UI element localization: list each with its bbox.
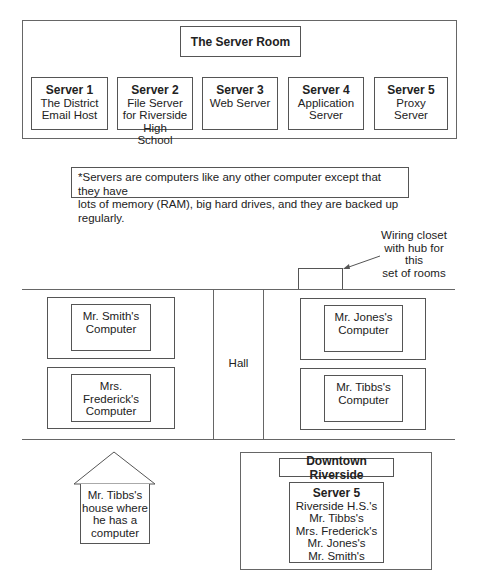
downtown-server-line: Mr. Tibbs's: [309, 512, 364, 525]
computer-tibbs: Mr. Tibbs's Computer: [324, 375, 403, 422]
computer-frederick-line: Computer: [86, 405, 137, 418]
wiring-closet-label-line: Wiring closet: [381, 229, 447, 242]
downtown-server-line: Mr. Jones's: [308, 537, 366, 550]
computer-smith-line: Computer: [86, 323, 137, 336]
hall-label-text: Hall: [229, 357, 249, 370]
hall-label: Hall: [214, 355, 263, 371]
downtown-server-line: Riverside H.S.'s: [296, 500, 377, 513]
computer-frederick-line: Mrs. Frederick's: [72, 380, 150, 405]
footnote-line-1: *Servers are computers like any other co…: [78, 171, 402, 198]
downtown-server-line: Mr. Smith's: [308, 550, 365, 563]
server-2-name: Server 2: [131, 84, 178, 97]
server-1-desc: The District: [40, 97, 98, 110]
server-4-desc: Server: [309, 109, 343, 122]
server-3-name: Server 3: [216, 84, 263, 97]
arrow-icon: [340, 254, 382, 272]
server-5-desc: Server: [394, 109, 428, 122]
downtown-title: Downtown Riverside: [279, 458, 394, 477]
computer-tibbs-line: Computer: [338, 394, 389, 407]
computer-frederick: Mrs. Frederick's Computer: [71, 374, 151, 422]
server-1-box: Server 1 The District Email Host: [31, 77, 108, 130]
servers-footnote: *Servers are computers like any other co…: [71, 167, 409, 198]
server-1-name: Server 1: [46, 84, 93, 97]
house-line: he has a: [93, 514, 137, 527]
server-4-desc: Application: [298, 97, 354, 110]
server-3-desc: Web Server: [210, 97, 271, 110]
building-bottom-wall: [22, 439, 455, 440]
server-2-desc: High: [143, 122, 167, 135]
tibbs-house: Mr. Tibbs's house where he has a compute…: [80, 484, 150, 544]
server-4-name: Server 4: [302, 84, 349, 97]
downtown-server-name: Server 5: [313, 487, 360, 500]
downtown-server-line: Mrs. Frederick's: [296, 525, 377, 538]
computer-jones-line: Mr. Jones's: [335, 311, 393, 324]
building-top-wall: [22, 289, 455, 290]
wiring-closet-label-line: with hub for this: [374, 242, 454, 267]
footnote-line-2: lots of memory (RAM), big hard drives, a…: [78, 198, 402, 225]
house-line: house where: [82, 502, 148, 515]
server-room-title: The Server Room: [180, 26, 301, 57]
server-room-title-text: The Server Room: [191, 35, 290, 49]
computer-smith: Mr. Smith's Computer: [71, 304, 151, 351]
downtown-server-5: Server 5 Riverside H.S.'s Mr. Tibbs's Mr…: [289, 482, 384, 563]
server-2-desc: for Riverside: [123, 109, 188, 122]
server-5-box: Server 5 Proxy Server: [374, 77, 448, 130]
server-5-desc: Proxy: [396, 97, 425, 110]
computer-jones-line: Computer: [338, 324, 389, 337]
computer-tibbs-line: Mr. Tibbs's: [336, 381, 391, 394]
server-3-box: Server 3 Web Server: [202, 77, 278, 130]
wiring-closet-label-line: set of rooms: [382, 267, 445, 280]
server-2-desc: File Server: [127, 97, 183, 110]
downtown-title-text: Downtown Riverside: [280, 454, 393, 482]
wiring-closet-box: [298, 268, 343, 290]
server-2-box: Server 2 File Server for Riverside High …: [117, 77, 193, 130]
server-1-desc: Email Host: [42, 109, 98, 122]
hall-right-wall: [263, 289, 264, 439]
computer-smith-line: Mr. Smith's: [83, 310, 140, 323]
server-2-desc: School: [137, 134, 172, 147]
server-5-name: Server 5: [387, 84, 434, 97]
wiring-closet-label: Wiring closet with hub for this set of r…: [374, 234, 454, 274]
house-line: computer: [91, 527, 139, 540]
server-4-box: Server 4 Application Server: [288, 77, 364, 130]
computer-jones: Mr. Jones's Computer: [324, 305, 403, 352]
house-roof-icon: [73, 451, 157, 486]
house-line: Mr. Tibbs's: [88, 489, 143, 502]
